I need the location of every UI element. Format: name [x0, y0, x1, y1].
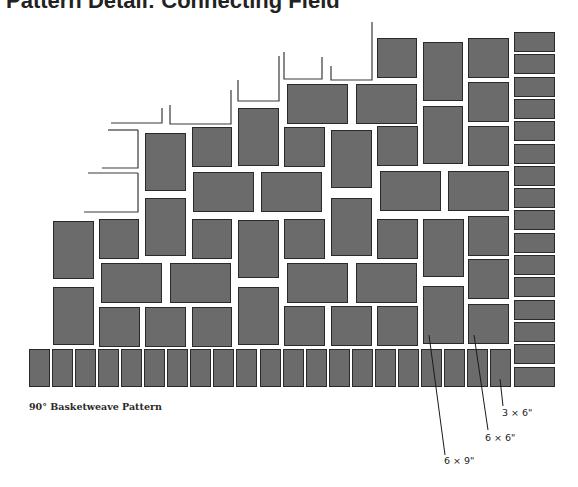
callout-label-6x6: 6 × 6": [485, 432, 515, 443]
callout-line-6x9: [429, 335, 445, 455]
callout-label-3x6: 3 × 6": [502, 407, 532, 418]
callout-line-6x6: [474, 335, 488, 430]
basketweave-diagram: [0, 0, 578, 487]
pattern-caption: 90° Basketweave Pattern: [29, 401, 162, 412]
pattern-outline-lines: [0, 0, 578, 487]
callout-line-3x6: [500, 379, 503, 406]
callout-label-6x9: 6 × 9": [444, 455, 474, 466]
